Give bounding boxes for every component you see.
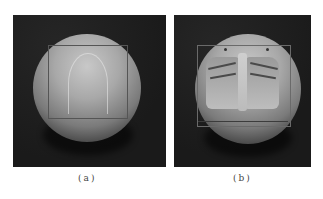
caption-a: (a) (78, 173, 96, 183)
panel-b (174, 15, 311, 167)
caption-b: (b) (233, 173, 252, 183)
marker-dot (266, 48, 269, 51)
trachea (238, 53, 247, 111)
marker-dot (224, 48, 227, 51)
horizontal-line (198, 121, 288, 122)
panel-a (13, 15, 166, 167)
arc-highlight (68, 53, 108, 114)
